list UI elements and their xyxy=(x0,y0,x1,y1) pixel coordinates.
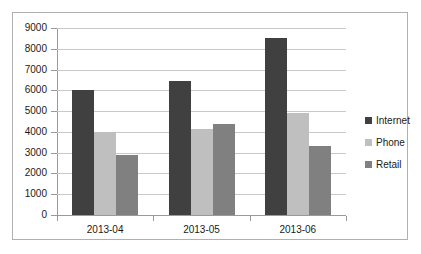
chart-legend: InternetPhoneRetail xyxy=(365,111,410,177)
y-axis-tick-label: 0 xyxy=(13,210,47,220)
x-axis-tick xyxy=(250,216,251,221)
y-axis-tick-label: 4000 xyxy=(13,127,47,137)
y-axis-tick-label: 8000 xyxy=(13,44,47,54)
bar-phone-2013-06 xyxy=(287,113,309,215)
y-axis-tick-label: 5000 xyxy=(13,106,47,116)
legend-label: Phone xyxy=(376,137,405,148)
legend-item-internet[interactable]: Internet xyxy=(365,111,410,133)
x-axis-tick xyxy=(153,216,154,221)
x-axis-label-2013-06: 2013-06 xyxy=(258,224,338,235)
legend-item-phone[interactable]: Phone xyxy=(365,133,410,155)
legend-label: Internet xyxy=(376,115,410,126)
legend-swatch-icon xyxy=(365,139,372,146)
y-axis-tick-label: 2000 xyxy=(13,168,47,178)
bar-retail-2013-06 xyxy=(309,146,331,215)
y-axis-tick-label: 1000 xyxy=(13,189,47,199)
y-axis-tick-label: 9000 xyxy=(13,23,47,33)
bar-internet-2013-06 xyxy=(265,38,287,215)
x-axis-tick xyxy=(346,216,347,221)
legend-swatch-icon xyxy=(365,161,372,168)
legend-swatch-icon xyxy=(365,117,372,124)
plot-area xyxy=(57,28,346,215)
legend-label: Retail xyxy=(376,159,402,170)
x-axis-label-2013-05: 2013-05 xyxy=(162,224,242,235)
x-axis-tick xyxy=(57,216,58,221)
bar-group xyxy=(57,28,346,215)
legend-item-retail[interactable]: Retail xyxy=(365,155,410,177)
chart-frame: 9000800070006000500040003000200010000 20… xyxy=(12,12,408,240)
y-axis-tick-label: 3000 xyxy=(13,148,47,158)
gridline-0 xyxy=(57,215,346,216)
x-axis-label-2013-04: 2013-04 xyxy=(65,224,145,235)
y-axis-tick-label: 6000 xyxy=(13,85,47,95)
y-axis-tick-label: 7000 xyxy=(13,65,47,75)
